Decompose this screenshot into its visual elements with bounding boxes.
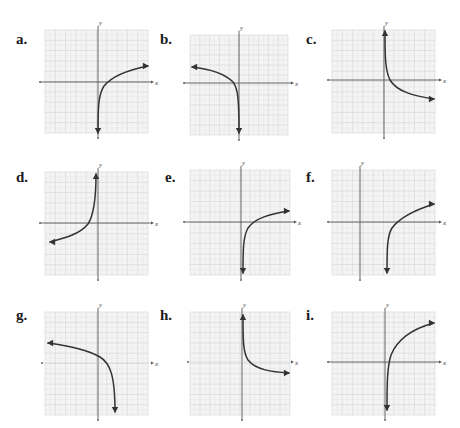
panel-label-f: f. <box>306 170 315 185</box>
grid-lines <box>45 172 148 275</box>
y-axis-label: y <box>384 19 389 27</box>
y-axis-label: y <box>242 301 247 309</box>
y-axis-label: y <box>98 301 103 309</box>
y-axis-label: y <box>239 24 244 32</box>
y-axis-label: y <box>98 19 103 27</box>
graph-e: yx <box>183 159 302 281</box>
graph-h: yx <box>187 301 299 421</box>
x-axis-label: x <box>154 79 159 87</box>
panel-label-a: a. <box>16 32 27 47</box>
graph-i: yx <box>327 301 447 421</box>
panel-label-g: g. <box>16 308 27 323</box>
graph-f: yx <box>327 159 447 281</box>
grid-lines <box>332 170 435 275</box>
graphs-canvas: yxyxyxyxyxyxyxyxyx <box>0 0 460 428</box>
y-axis-label: y <box>385 301 390 309</box>
x-axis-label: x <box>294 359 299 367</box>
grid-lines <box>45 312 148 415</box>
x-axis-label: x <box>442 77 447 85</box>
panel-label-e: e. <box>165 170 175 185</box>
y-axis-label: y <box>241 159 246 167</box>
panel-label-d: d. <box>16 170 28 185</box>
panel-label-c: c. <box>306 32 316 47</box>
grid-lines <box>190 312 290 415</box>
graph-g: yx <box>41 301 159 421</box>
grid-lines <box>332 30 435 133</box>
y-axis-label: y <box>98 161 103 169</box>
x-axis-label: x <box>294 80 299 88</box>
grid-lines <box>45 30 148 133</box>
x-axis-label: x <box>154 360 159 368</box>
grid-lines <box>190 170 290 275</box>
graph-b: yx <box>183 24 299 141</box>
x-axis-label: x <box>442 219 447 227</box>
graph-d: yx <box>39 161 159 281</box>
x-axis-label: x <box>297 219 302 227</box>
x-axis-label: x <box>154 220 159 228</box>
panel-label-i: i. <box>306 308 314 323</box>
graph-c: yx <box>327 19 447 139</box>
panel-label-b: b. <box>160 32 172 47</box>
x-axis-label: x <box>442 359 447 367</box>
y-axis-label: y <box>360 159 365 167</box>
panel-label-h: h. <box>160 308 172 323</box>
graph-a: yx <box>39 19 159 139</box>
